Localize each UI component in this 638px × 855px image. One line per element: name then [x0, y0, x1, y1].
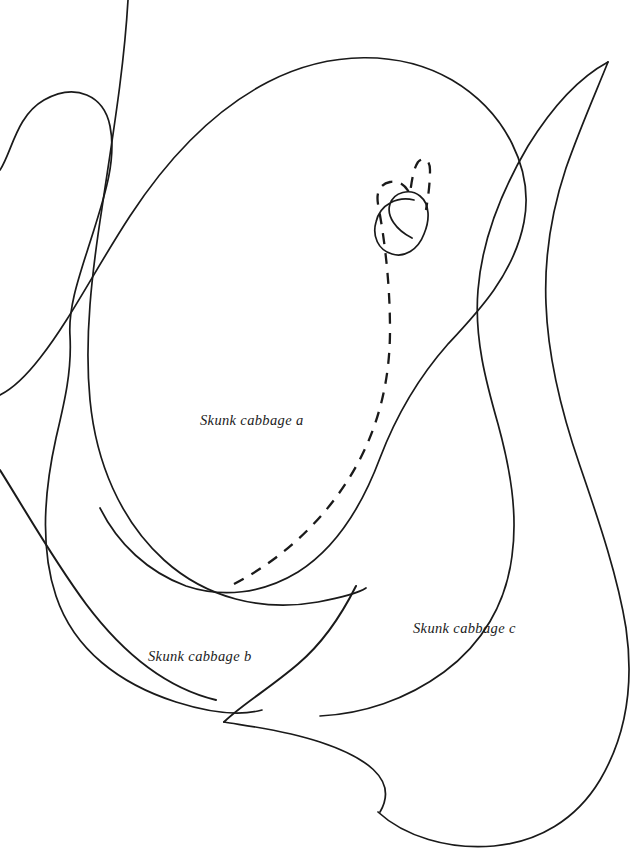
- path-mid-curve-a: [88, 0, 366, 605]
- path-outer-leaf-a: [0, 58, 526, 593]
- label-skunk-cabbage-a: Skunk cabbage a: [200, 412, 304, 429]
- path-cusp-lower: [224, 722, 385, 812]
- figure-canvas: Skunk cabbage a Skunk cabbage b Skunk ca…: [0, 0, 638, 855]
- path-spathe-hook: [375, 192, 428, 255]
- path-inner-spathe-a: [0, 92, 262, 713]
- label-skunk-cabbage-b: Skunk cabbage b: [148, 648, 252, 665]
- label-skunk-cabbage-c: Skunk cabbage c: [413, 620, 516, 637]
- line-drawing-svg: [0, 0, 638, 855]
- path-leaf-c-inner: [320, 62, 608, 716]
- path-dashed-spadix: [234, 159, 430, 584]
- path-leaf-c-outer: [378, 62, 629, 847]
